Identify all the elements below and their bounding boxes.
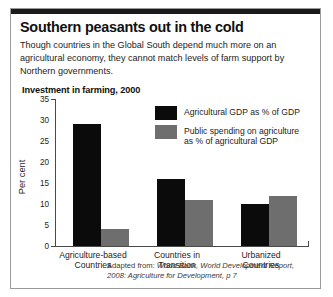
legend-label-series1-line1: Agricultural GDP as % of GDP xyxy=(184,107,300,117)
legend-label-series1: Agricultural GDP as % of GDP xyxy=(184,106,300,117)
x-category-label-1-line1: Agriculture-based xyxy=(45,250,141,260)
legend-label-series2-line1: Public spending on agriculture xyxy=(184,126,299,136)
bar-series1-cat3 xyxy=(241,204,269,246)
bar-series1-cat2 xyxy=(157,179,185,246)
source-note: Adapted from: World Bank, World Developm… xyxy=(107,261,312,281)
legend-item-1: Agricultural GDP as % of GDP xyxy=(155,106,311,120)
y-tick-label-35: 35 xyxy=(31,95,49,104)
y-tick-label-30: 30 xyxy=(31,116,49,125)
y-axis-title: Per cent xyxy=(17,142,27,212)
x-category-label-2-line1: Countries in xyxy=(129,250,225,260)
bar-series1-cat1 xyxy=(73,124,101,246)
legend-swatch-icon-series2 xyxy=(155,125,177,139)
bar-series2-cat3 xyxy=(269,196,297,246)
legend-label-series2-line2: as % of agricultural GDP xyxy=(184,136,299,146)
legend-swatch-icon-series1 xyxy=(155,106,177,120)
legend-item-2: Public spending on agriculture as % of a… xyxy=(155,125,311,146)
legend: Agricultural GDP as % of GDP Public spen… xyxy=(155,106,311,151)
y-tick-label-20: 20 xyxy=(31,158,49,167)
y-tick-label-10: 10 xyxy=(31,200,49,209)
plot-area: 35 30 25 20 15 10 5 0 Per cent Agricultu… xyxy=(11,9,320,288)
y-tick-label-15: 15 xyxy=(31,179,49,188)
x-axis-line xyxy=(55,246,309,247)
x-axis-end-tick xyxy=(308,241,309,247)
source-prefix: Adapted from: xyxy=(107,261,155,270)
x-category-label-3-line1: Urbanized xyxy=(213,250,309,260)
y-tick-label-5: 5 xyxy=(31,221,49,230)
legend-label-series2: Public spending on agriculture as % of a… xyxy=(184,125,299,146)
y-tick-label-25: 25 xyxy=(31,137,49,146)
chart-figure: Southern peasants out in the cold Though… xyxy=(10,8,321,289)
bar-series2-cat1 xyxy=(101,229,129,246)
y-tick-mark-0 xyxy=(51,246,55,247)
bar-series2-cat2 xyxy=(185,200,213,246)
